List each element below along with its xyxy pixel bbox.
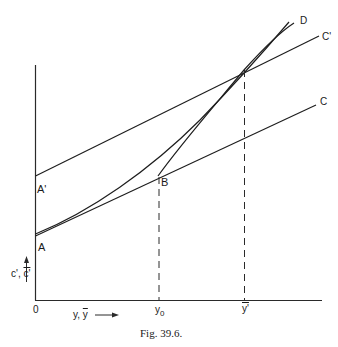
tick-label-y0: y0	[155, 305, 164, 318]
curve-label-c-prime: C'	[322, 32, 331, 42]
x-axis-label-main: y,	[73, 309, 83, 320]
point-label-a-prime: A'	[37, 184, 46, 195]
curve-label-d: D	[300, 16, 307, 26]
line-c	[36, 105, 317, 236]
tick-label-ybar-prime: y'	[242, 304, 249, 314]
point-label-b: B	[161, 177, 168, 188]
line-c-prime	[36, 36, 320, 176]
y-arrowhead-icon	[24, 256, 29, 263]
point-label-a: A	[38, 242, 45, 253]
y-axis-label-main: c',	[11, 268, 23, 279]
tick-y0-sub: 0	[160, 309, 164, 318]
x-axis-label-bar: y	[83, 309, 88, 320]
x-axis-label: y, y	[73, 310, 88, 320]
curve-d-upper	[158, 23, 294, 176]
y-axis-label-bar: c'	[23, 268, 30, 279]
curve-label-c: C	[320, 97, 327, 107]
figure-39-6: A' A B D C' C c', c' 0 y, y y0 y' Fig. 3…	[0, 0, 338, 347]
x-arrowhead-icon	[112, 313, 119, 318]
figure-caption: Fig. 39.6.	[140, 327, 182, 339]
y-axis-label: c', c'	[11, 269, 30, 279]
diagram-canvas	[0, 0, 338, 347]
curve-d-lower	[36, 22, 290, 234]
origin-label: 0	[33, 305, 39, 315]
